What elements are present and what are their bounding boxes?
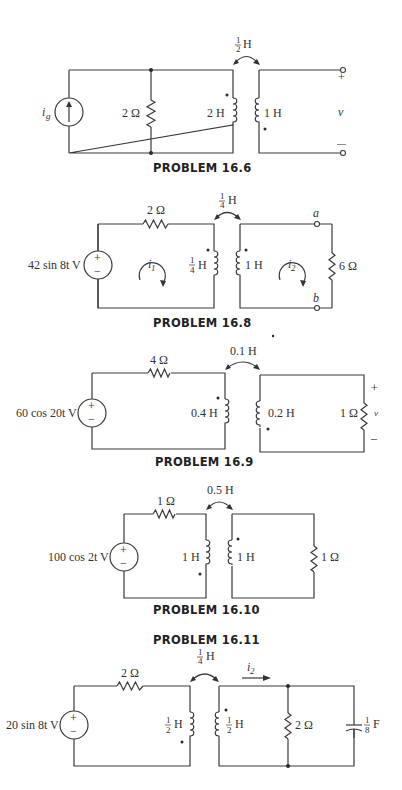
inductor-secondary (228, 540, 232, 565)
resistor-2ohm (147, 100, 155, 127)
l1-label: 2 H (207, 106, 225, 120)
svg-text:+: + (94, 251, 101, 265)
resistor-1ohm (361, 403, 367, 430)
clockwise-arrow-icon (300, 280, 306, 287)
problem-title: PROBLEM 16.8 (153, 316, 251, 330)
polarity-dot (199, 573, 202, 576)
i1-sub: 1 (151, 263, 156, 273)
mutual-den: 4 (198, 656, 203, 666)
mutual-label: 0.5 H (207, 483, 234, 497)
resistor-4ohm (148, 369, 170, 377)
polarity-dot (237, 538, 240, 541)
problems-page: i g 2 Ω 2 H 1 H 1 2 H + v — PROBLEM 16.6… (0, 0, 402, 790)
terminal-minus (341, 151, 346, 156)
resistor2-label: 1 Ω (321, 550, 339, 564)
mutual-coupling-arc (227, 362, 258, 368)
cap-num: 1 (365, 715, 370, 725)
plus-sign: + (338, 70, 345, 84)
i2-sub: 2 (291, 263, 296, 273)
inductor-primary (225, 399, 229, 425)
inductor-primary (214, 251, 218, 277)
inductor-primary (233, 98, 237, 125)
node-dot (286, 764, 290, 768)
minus-sign: — (336, 138, 347, 148)
resistor-6ohm (329, 253, 335, 280)
node-a-label: a (313, 206, 319, 220)
v-label: v (338, 105, 344, 119)
mutual-unit: H (243, 37, 252, 51)
primary-loop-wire (98, 224, 214, 308)
source-label: 20 sin 8t V (6, 718, 59, 732)
circuit-16-10: + − 100 cos 2t V 1 Ω 0.5 H 1 H 1 H 1 Ω P… (48, 483, 339, 617)
polarity-dot (245, 249, 248, 252)
svg-text:−: − (94, 264, 101, 278)
l1-unit: H (174, 717, 183, 731)
svg-text:−: − (120, 556, 127, 570)
source-subscript: g (46, 111, 51, 121)
mutual-label: 0.1 H (230, 344, 257, 358)
source-label: 60 cos 20t V (16, 406, 77, 420)
polarity-dot (225, 709, 228, 712)
stray-mark (272, 335, 274, 337)
l2-den: 2 (227, 725, 232, 735)
polarity-dot (226, 94, 229, 97)
resistor-label: 2 Ω (122, 106, 140, 120)
inductor-secondary (256, 401, 260, 427)
l2-label: 1 H (245, 258, 263, 272)
resistor2-label: 1 Ω (340, 406, 358, 420)
polarity-dot (207, 249, 210, 252)
v-label: v (374, 408, 378, 418)
l2-label: 0.2 H (268, 406, 295, 420)
mutual-den: 2 (236, 44, 241, 54)
source-label: i (42, 105, 45, 119)
resistor1-label: 1 Ω (157, 494, 175, 508)
source-label: 100 cos 2t V (48, 550, 109, 564)
terminal-b (315, 306, 320, 311)
node-b-label: b (313, 291, 319, 305)
resistor-1ohm-load (311, 546, 317, 572)
source-label: 42 sin 8t V (28, 258, 81, 272)
l2-label: 1 H (264, 106, 282, 120)
polarity-dot (264, 128, 267, 131)
polarity-dot (181, 741, 184, 744)
l1-den: 2 (166, 725, 171, 735)
node-dot (149, 151, 153, 155)
mutual-unit: H (206, 649, 215, 663)
circuit-16-9: + − 60 cos 20t V 4 Ω 0.1 H 0.4 H 0.2 H 1… (16, 344, 378, 469)
l1-unit: H (198, 258, 207, 272)
l1-den: 4 (190, 265, 195, 275)
arrowhead-icon (225, 364, 231, 370)
primary-loop-wire (74, 686, 190, 766)
circuit-16-8: + − 42 sin 8t V 2 Ω 1 4 H 1 4 H 1 H i 1 … (28, 191, 357, 330)
svg-text:+: + (120, 543, 127, 557)
cap-den: 8 (365, 725, 370, 735)
inductor-secondary (255, 98, 259, 125)
problem-title: PROBLEM 16.11 (153, 633, 260, 647)
node-dot (286, 684, 290, 688)
mutual-den: 4 (220, 200, 225, 210)
resistor-1ohm (153, 510, 175, 518)
l1-num: 1 (166, 715, 171, 725)
problem-title: PROBLEM 16.6 (153, 161, 251, 175)
inductor-secondary (236, 251, 240, 277)
plus-sign: + (371, 381, 378, 395)
resistor1-label: 2 Ω (121, 666, 139, 680)
resistor2-label: 6 Ω (339, 259, 357, 273)
resistor-2ohm-shunt (285, 713, 291, 739)
polarity-dot (267, 428, 270, 431)
i2-sub: 2 (250, 666, 255, 676)
polarity-dot (217, 397, 220, 400)
resistor1-label: 2 Ω (147, 203, 165, 217)
problem-title: PROBLEM 16.10 (153, 603, 260, 617)
svg-text:−: − (70, 724, 77, 738)
terminal-a (315, 222, 320, 227)
svg-text:+: + (70, 711, 77, 725)
circuit-16-11: PROBLEM 16.11 + − 20 sin 8t V 2 Ω 1 4 (6, 633, 380, 768)
problem-title: PROBLEM 16.9 (155, 455, 253, 469)
svg-text:−: − (88, 412, 95, 426)
cap-unit: F (373, 717, 380, 731)
l2-label: 1 H (237, 550, 255, 564)
inductor-primary (190, 712, 194, 738)
node-dot (149, 68, 153, 72)
resistor2-label: 2 Ω (295, 718, 313, 732)
